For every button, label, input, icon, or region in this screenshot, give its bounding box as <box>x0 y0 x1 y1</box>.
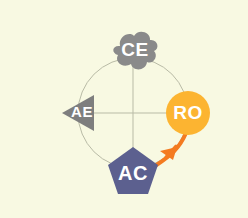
ro-to-ac-arrow <box>155 133 186 166</box>
node-ce[interactable]: CE <box>113 32 157 70</box>
diagram-canvas: CE AE RO AC <box>0 0 248 218</box>
node-ae[interactable]: AE <box>62 95 94 131</box>
node-ro-label: RO <box>173 102 203 123</box>
node-ac-label: AC <box>118 162 148 184</box>
diagram-svg: CE AE RO AC <box>0 0 248 218</box>
node-ce-label: CE <box>121 39 148 60</box>
node-ae-label: AE <box>71 103 93 120</box>
node-ac[interactable]: AC <box>108 147 158 194</box>
node-ro[interactable]: RO <box>166 91 210 135</box>
